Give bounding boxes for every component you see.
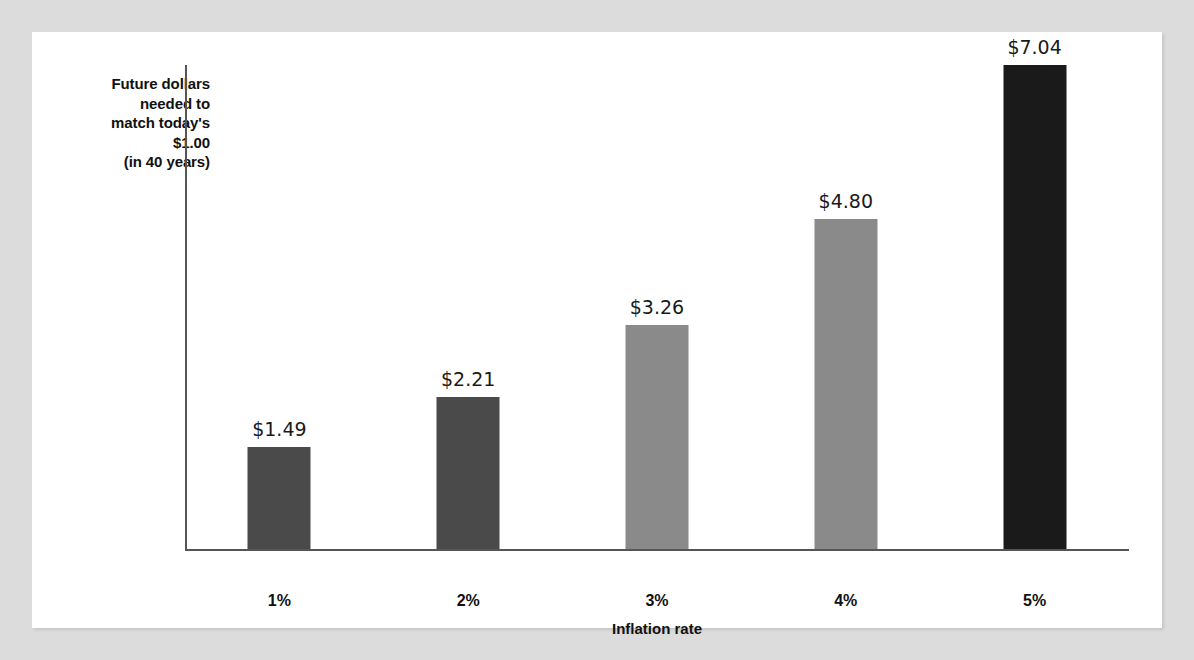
bar-slot: $4.80 xyxy=(751,65,940,549)
bar-value-label: $7.04 xyxy=(1007,36,1061,58)
bar-value-label: $4.80 xyxy=(819,190,873,212)
x-tick-label: 3% xyxy=(563,592,752,610)
bar[interactable]: $4.80 xyxy=(814,219,877,549)
plot-area: $1.49$2.21$3.26$4.80$7.04 xyxy=(185,65,1129,551)
bar-value-label: $3.26 xyxy=(630,296,684,318)
bar-slot: $1.49 xyxy=(185,65,374,549)
x-axis-line xyxy=(185,549,1129,551)
bar-slot: $2.21 xyxy=(374,65,563,549)
x-axis-label: Inflation rate xyxy=(185,620,1129,637)
bar-slot: $7.04 xyxy=(940,65,1129,549)
chart-panel: Future dollars needed to match today's $… xyxy=(32,32,1162,628)
bar[interactable]: $1.49 xyxy=(248,447,311,549)
bar[interactable]: $7.04 xyxy=(1003,65,1066,549)
x-tick-label: 5% xyxy=(940,592,1129,610)
bar-slot: $3.26 xyxy=(563,65,752,549)
bar-series: $1.49$2.21$3.26$4.80$7.04 xyxy=(185,65,1129,549)
x-tick-label: 2% xyxy=(374,592,563,610)
x-tick-label: 4% xyxy=(751,592,940,610)
chart-page: Future dollars needed to match today's $… xyxy=(0,0,1194,660)
x-axis-tick-labels: 1%2%3%4%5% xyxy=(185,592,1129,618)
bar-value-label: $1.49 xyxy=(252,418,306,440)
bar[interactable]: $2.21 xyxy=(437,397,500,549)
x-tick-label: 1% xyxy=(185,592,374,610)
bar[interactable]: $3.26 xyxy=(625,325,688,549)
bar-value-label: $2.21 xyxy=(441,368,495,390)
